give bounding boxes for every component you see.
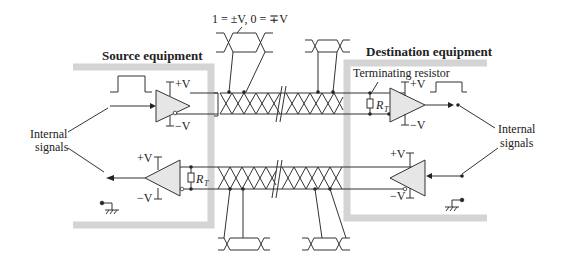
terminating-resistor-destination — [367, 99, 373, 108]
svg-text:+V: +V — [410, 77, 426, 91]
eye-diagram-top-left — [216, 27, 273, 92]
eye-diagram-bottom-right — [302, 189, 350, 250]
internal-signals-right-label: Internal — [498, 122, 536, 136]
logic-levels-label: 1 = ±V, 0 = ∓V — [212, 12, 288, 26]
svg-text:T: T — [204, 179, 209, 188]
plus-v-label: +V — [175, 77, 191, 91]
svg-text:−V: −V — [137, 191, 153, 205]
svg-text:−V: −V — [410, 118, 426, 132]
top-signal-path: +V −V R T — [110, 76, 467, 133]
svg-text:+V: +V — [137, 151, 153, 165]
ground-left-icon — [100, 201, 119, 214]
input-pulse-waveform — [110, 76, 152, 92]
svg-text:signals: signals — [500, 136, 534, 150]
ground-right-icon — [445, 198, 464, 211]
svg-text:+V: +V — [390, 147, 406, 161]
internal-signals-left-label: Internal — [30, 127, 68, 141]
source-driver-amplifier — [156, 90, 190, 122]
output-pulse-waveform — [430, 82, 467, 92]
eye-diagram-bottom-left — [218, 189, 270, 250]
svg-text:signals: signals — [35, 140, 69, 154]
destination-receiver-amplifier — [390, 88, 425, 122]
destination-equipment-label: Destination equipment — [366, 44, 493, 59]
source-equipment-label: Source equipment — [102, 48, 203, 63]
terminating-resistor-source — [188, 173, 194, 182]
arrow-icon — [150, 103, 156, 109]
balanced-line-diagram: Source equipment Destination equipment 1… — [0, 0, 562, 267]
svg-text:R: R — [195, 172, 204, 186]
bottom-signal-path: +V −V R T +V −V — [106, 147, 464, 205]
rt-label: R — [375, 98, 384, 112]
terminating-resistor-label: Terminating resistor — [353, 66, 450, 80]
eye-diagram-top-middle — [305, 40, 350, 92]
twisted-pair-top — [220, 86, 343, 122]
svg-text:−V: −V — [390, 189, 406, 203]
minus-v-label: −V — [175, 119, 191, 133]
svg-text:T: T — [384, 105, 389, 114]
